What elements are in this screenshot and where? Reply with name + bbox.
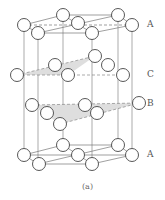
atom-icon — [112, 9, 125, 22]
crystal-structure-diagram: A C B A (a) — [0, 0, 165, 200]
atom-icon — [11, 69, 24, 82]
atom-icon — [26, 99, 39, 112]
atom-icon — [133, 97, 146, 110]
atom-icon — [54, 118, 67, 131]
atom-icon — [89, 50, 102, 63]
atom-icon — [126, 149, 139, 162]
atom-icon — [112, 139, 125, 152]
atom-icon — [33, 158, 46, 171]
atom-icon — [79, 99, 92, 112]
atom-icon — [18, 19, 31, 32]
atom-icon — [62, 69, 75, 82]
atom-icon — [117, 69, 130, 82]
atom-icon — [41, 107, 54, 120]
atom-icon — [57, 9, 70, 22]
atom-icon — [91, 107, 104, 120]
atom-icon — [18, 149, 31, 162]
atom-icon — [86, 27, 99, 40]
atom-icon — [126, 19, 139, 32]
atom-icon — [86, 158, 99, 171]
stacking-diagram-svg — [0, 0, 165, 200]
layer-label-top-a: A — [147, 20, 154, 29]
atom-icon — [57, 139, 70, 152]
layer-label-b: B — [147, 99, 154, 108]
figure-caption: (a) — [82, 183, 93, 191]
layer-label-c: C — [147, 70, 154, 79]
atom-icon — [102, 59, 115, 72]
atom-icon — [32, 27, 45, 40]
layer-label-bottom-a: A — [147, 150, 154, 159]
atom-icon — [72, 149, 85, 162]
atom-icon — [72, 17, 85, 30]
atom-icon — [49, 59, 62, 72]
